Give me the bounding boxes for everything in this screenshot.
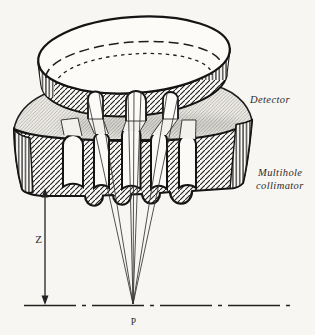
focal-point-label: P (131, 317, 136, 327)
z-arrowhead-bottom (42, 296, 49, 306)
z-distance-label: Z (35, 233, 42, 245)
collimator-hole (63, 135, 83, 187)
collimator-label-line2: collimator (256, 180, 304, 191)
collimator-label-line1: Multihole (257, 167, 302, 178)
collimator-surface-shading (58, 114, 242, 136)
hole-connector (61, 118, 82, 136)
collimator-hole (179, 136, 196, 189)
hole-connector (180, 120, 197, 139)
detector-label: Detector (249, 94, 290, 105)
z-dimension: Z (35, 188, 48, 305)
figure: Z P Detector Multihole collimator (0, 0, 315, 335)
collimator-left-side-face (14, 129, 33, 193)
figure-canvas: Z P Detector Multihole collimator (0, 0, 315, 335)
